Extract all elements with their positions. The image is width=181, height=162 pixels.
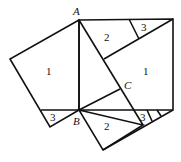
label-left-3: 3 xyxy=(50,111,56,123)
left-square xyxy=(10,20,79,127)
bottom-divider-2 xyxy=(157,110,161,116)
label-top-3: 3 xyxy=(141,21,147,33)
vertex-b: B xyxy=(73,115,80,127)
divider-top-3 xyxy=(129,19,139,39)
label-right-1: 1 xyxy=(143,65,149,77)
label-top-2: 2 xyxy=(104,31,110,43)
line-bc xyxy=(79,89,120,110)
label-bottom-2: 2 xyxy=(104,120,110,132)
bottom-square xyxy=(79,110,143,150)
bottom-divider-1 xyxy=(147,110,152,121)
label-bottom-3: 3 xyxy=(140,111,146,123)
pythagorean-diagram: A B C 1 3 2 3 1 2 3 xyxy=(0,0,181,162)
label-left-1: 1 xyxy=(46,65,52,77)
vertex-c: C xyxy=(124,79,132,91)
vertex-a: A xyxy=(72,5,80,17)
